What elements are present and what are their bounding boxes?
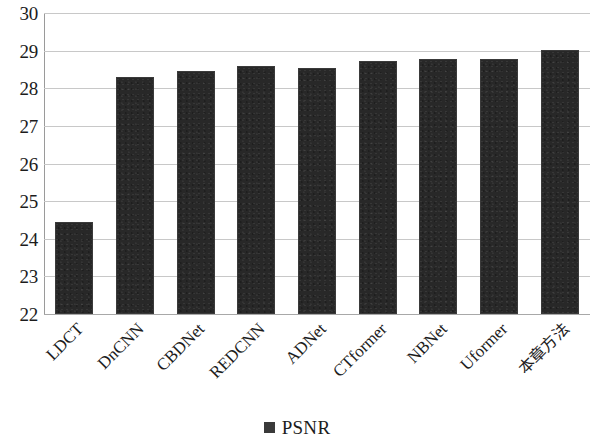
chart-legend: PSNR <box>0 418 594 437</box>
legend-swatch-psnr <box>264 422 275 433</box>
y-tick-label: 25 <box>4 192 38 211</box>
bar <box>55 222 93 314</box>
x-label-slot: CTformer <box>347 314 408 404</box>
x-tick-label: LDCT <box>43 320 87 364</box>
bar <box>359 61 397 314</box>
psnr-bar-chart: 302928272625242322 LDCTDnCNNCBDNetREDCNN… <box>0 0 594 448</box>
bar <box>177 71 215 314</box>
bar <box>298 68 336 314</box>
y-tick-label: 23 <box>4 267 38 286</box>
x-label-slot: REDCNN <box>226 314 287 404</box>
y-tick-label: 24 <box>4 230 38 249</box>
y-tick-label: 22 <box>4 305 38 324</box>
x-tick-label: ADNet <box>282 320 329 367</box>
y-axis-tick-labels: 302928272625242322 <box>0 0 38 330</box>
bar <box>419 59 457 314</box>
y-tick-label: 27 <box>4 117 38 136</box>
gridline <box>44 51 590 52</box>
x-label-slot: 本章方法 <box>529 314 590 404</box>
x-tick-label: NBNet <box>404 320 451 367</box>
plot-area <box>44 13 590 314</box>
y-tick-label: 29 <box>4 42 38 61</box>
y-tick-label: 28 <box>4 79 38 98</box>
bar <box>116 77 154 314</box>
x-axis-category-labels: LDCTDnCNNCBDNetREDCNNADNetCTformerNBNetU… <box>44 314 590 404</box>
bar <box>237 66 275 314</box>
legend-label-psnr: PSNR <box>282 418 331 437</box>
bar <box>541 50 579 315</box>
y-tick-label: 30 <box>4 4 38 23</box>
gridline <box>44 13 590 14</box>
bar <box>480 59 518 314</box>
y-tick-label: 26 <box>4 155 38 174</box>
